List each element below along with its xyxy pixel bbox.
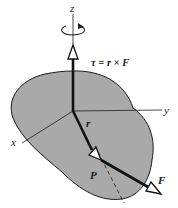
x-axis-label: x (10, 136, 16, 148)
z-axis-label: z (69, 2, 75, 14)
force-label: F (157, 174, 166, 186)
position-vector-label: r (86, 117, 91, 129)
torque-equation-label: τ = r × F (91, 57, 129, 68)
torque-diagram: z τ = r × F y x r P F (0, 0, 178, 208)
y-axis-label: y (163, 104, 169, 116)
rigid-body (11, 71, 153, 200)
torque-vector-head (68, 45, 78, 59)
point-label: P (90, 169, 97, 181)
